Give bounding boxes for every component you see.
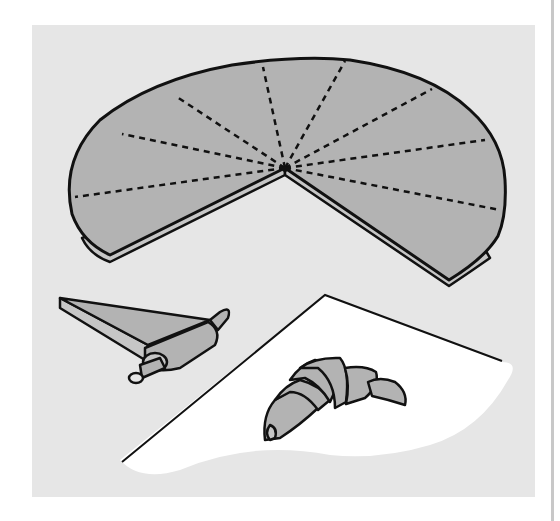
illustration-svg	[0, 0, 560, 521]
rolling-wedge	[60, 298, 229, 383]
dough-circle	[69, 58, 505, 286]
